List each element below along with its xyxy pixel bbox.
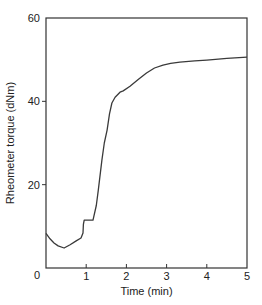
x-axis-ticks: 12345 (83, 264, 250, 282)
torque-curve (46, 57, 247, 248)
plot-frame (46, 18, 247, 268)
y-tick-label: 40 (28, 95, 40, 107)
x-tick-label: 4 (204, 270, 210, 282)
rheometer-chart: 0204060 12345 Time (min) Rheometer torqu… (0, 0, 262, 305)
x-tick-label: 3 (164, 270, 170, 282)
x-axis-label: Time (min) (120, 285, 172, 297)
x-tick-label: 5 (244, 270, 250, 282)
y-tick-label: 20 (28, 179, 40, 191)
y-axis-ticks: 0204060 (28, 12, 46, 281)
y-tick-label: 0 (34, 269, 40, 281)
x-tick-label: 1 (83, 270, 89, 282)
x-tick-label: 2 (123, 270, 129, 282)
y-axis-label: Rheometer torque (dNm) (4, 82, 16, 204)
y-tick-label: 60 (28, 12, 40, 24)
